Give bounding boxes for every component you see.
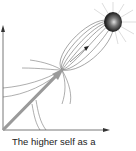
figure-caption: The higher self as a [12, 136, 136, 148]
higher-self-diagram [0, 0, 136, 151]
sphere-icon [104, 12, 122, 32]
field-lines-ellipse [60, 20, 114, 70]
vector-arrow-icon [4, 68, 64, 129]
